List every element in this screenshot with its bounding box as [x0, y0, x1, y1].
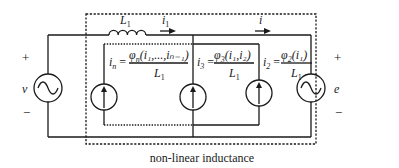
left-source-label: v: [22, 82, 28, 96]
svg-text:φ3(i₁,i₂): φ3(i₁,i₂): [214, 48, 251, 64]
right-source-label: e: [334, 82, 340, 96]
svg-text:L1: L1: [153, 66, 165, 82]
current-i-label: i: [259, 13, 262, 27]
svg-text:φn(i₁,...,iₙ₋₁): φn(i₁,...,iₙ₋₁): [129, 48, 189, 64]
svg-text:in =: in =: [109, 55, 126, 71]
current-i1-label: i1: [162, 13, 169, 29]
left-ac-source-icon: [34, 74, 62, 102]
inductor-label: L1: [119, 13, 131, 29]
current-source-i3-icon: [180, 84, 206, 110]
svg-text:i3 =: i3 =: [197, 55, 214, 71]
equation-i2: i2 = φ2(i₁) L1: [263, 48, 312, 82]
right-source-plus: +: [334, 50, 341, 65]
svg-text:L1: L1: [290, 66, 302, 82]
svg-text:i2 =: i2 =: [263, 55, 280, 71]
current-source-i2-icon: [246, 80, 272, 106]
circuit-diagram: L1 i1 i + v − + e − in =: [0, 0, 399, 168]
inductor-coil-icon: [109, 30, 146, 35]
diagram-caption: non-linear inductance: [150, 151, 254, 165]
left-source-plus: +: [22, 50, 29, 65]
svg-text:L1: L1: [228, 66, 240, 82]
current-i-arrow-icon: [255, 28, 271, 34]
equation-i3: i3 = φ3(i₁,i₂) L1: [197, 48, 254, 82]
current-source-in-icon: [91, 84, 117, 110]
left-source-minus: −: [23, 105, 30, 120]
svg-text:φ2(i₁): φ2(i₁): [281, 48, 307, 64]
equation-in: in = φn(i₁,...,iₙ₋₁) L1: [109, 48, 189, 82]
right-source-minus: −: [335, 105, 342, 120]
